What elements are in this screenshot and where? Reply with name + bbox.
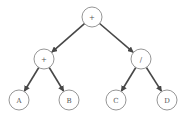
edge-left-op-to-leaf-b	[49, 68, 63, 92]
edge-root-to-right-op	[100, 24, 133, 53]
node-left-op-label: +	[41, 56, 47, 64]
node-root-label: +	[89, 14, 95, 22]
edge-root-to-left-op	[52, 24, 85, 53]
node-leaf-a: A	[9, 90, 29, 110]
node-right-op: /	[131, 49, 151, 69]
node-leaf-d-label: D	[164, 97, 170, 105]
node-leaf-b: B	[59, 90, 79, 110]
edge-right-op-to-leaf-c	[121, 68, 135, 92]
edge-right-op-to-leaf-d	[146, 67, 161, 91]
edge-left-op-to-leaf-a	[24, 68, 38, 92]
node-leaf-c: C	[106, 90, 126, 110]
node-leaf-a-label: A	[15, 97, 22, 105]
expression-tree-diagram: + + / A B C D	[0, 0, 183, 119]
node-leaf-d: D	[157, 90, 177, 110]
node-left-op: +	[34, 49, 54, 69]
node-root: +	[82, 7, 102, 27]
node-leaf-b-label: B	[66, 97, 71, 105]
nodes: + + / A B C D	[9, 7, 177, 110]
node-leaf-c-label: C	[113, 97, 118, 105]
